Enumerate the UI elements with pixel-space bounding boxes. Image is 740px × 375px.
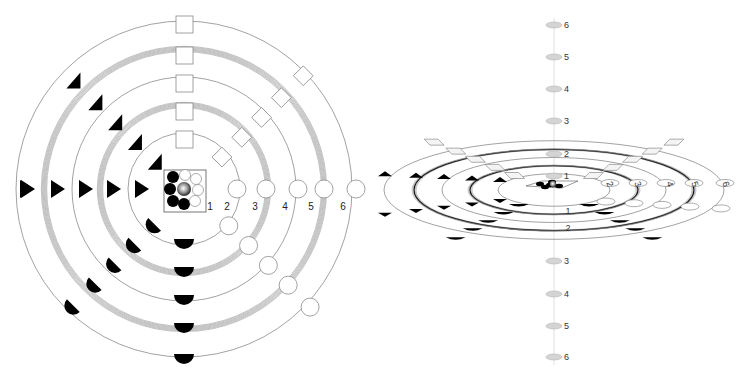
flattened-square-ne1 xyxy=(583,173,603,179)
flattened-circle-e-lower1 xyxy=(597,198,615,205)
flattened-square-nw1 xyxy=(505,173,525,179)
diamond-marker-ne4 xyxy=(271,88,291,108)
flattened-square-nw3 xyxy=(465,156,485,162)
flattened-half-disc-se5 xyxy=(642,237,662,240)
axis-disc-below-3 xyxy=(546,258,562,264)
plan-view-diagram: 123456 xyxy=(16,16,365,364)
axis-label-below-3: 3 xyxy=(564,256,569,266)
open-circle-4 xyxy=(190,196,201,207)
circle-marker-se2 xyxy=(240,237,258,255)
triangle-marker-nw3 xyxy=(108,114,122,130)
axis-disc-below-6 xyxy=(546,354,562,360)
center-filled-disc-4 xyxy=(555,184,563,188)
flattened-circle-e-lower4 xyxy=(681,203,699,210)
filled-circle-3 xyxy=(167,195,179,207)
triangle-marker-w-upper5 xyxy=(378,171,392,176)
half-disc-marker-s1 xyxy=(174,239,194,249)
axis-disc-above-3 xyxy=(546,118,562,124)
filled-circle-2 xyxy=(164,183,176,195)
perspective-view-diagram: 23456126543213456 xyxy=(378,18,734,365)
diamond-marker-ne1 xyxy=(212,147,232,167)
axis-label-above-2: 2 xyxy=(564,149,569,159)
ring-label-6: 6 xyxy=(340,201,346,212)
flattened-half-disc-se3 xyxy=(610,220,630,223)
axis-disc-above-2 xyxy=(546,151,562,157)
triangle-marker-w3 xyxy=(79,180,93,198)
triangle-marker-w-upper2 xyxy=(465,176,479,181)
triangle-marker-w1 xyxy=(135,180,149,198)
circle-marker-se4 xyxy=(279,276,297,294)
flattened-half-disc-se4 xyxy=(625,228,645,231)
half-disc-marker-sw3 xyxy=(102,258,121,277)
triangle-marker-w-lower5 xyxy=(378,213,392,217)
square-marker-n3 xyxy=(176,75,193,92)
filled-circle-4 xyxy=(178,198,190,210)
flattened-square-ne5 xyxy=(664,139,684,145)
axis-label-below-6: 6 xyxy=(564,352,569,362)
triangle-marker-nw1 xyxy=(148,154,162,170)
half-disc-marker-s3 xyxy=(174,295,194,305)
axis-disc-above-6 xyxy=(546,22,562,28)
flattened-half-disc-se2 xyxy=(595,212,615,215)
flattened-half-disc-se1 xyxy=(579,204,599,207)
ring-label-4: 4 xyxy=(282,201,288,212)
flattened-square-ne4 xyxy=(642,148,662,154)
axis-label-above-4: 4 xyxy=(564,84,569,94)
square-marker-n2 xyxy=(176,103,193,120)
center-sphere xyxy=(177,182,191,196)
triangle-marker-w2 xyxy=(107,180,121,198)
triangle-marker-nw4 xyxy=(88,94,102,110)
open-circle-3 xyxy=(193,185,204,196)
triangle-marker-w-lower2 xyxy=(465,202,479,206)
triangle-marker-w6 xyxy=(21,180,35,198)
inner-axis-label-2: 2 xyxy=(565,223,570,233)
axis-disc-above-5 xyxy=(546,54,562,60)
axis-disc-below-4 xyxy=(546,291,562,297)
half-disc-marker-sw5 xyxy=(61,299,80,318)
flattened-circle-e-lower5 xyxy=(712,205,730,212)
diamond-marker-ne5 xyxy=(293,66,313,86)
triangle-marker-nw5 xyxy=(66,72,80,88)
circle-marker-se3 xyxy=(259,256,277,274)
square-marker-n5 xyxy=(176,16,193,33)
flattened-half-disc-sw1 xyxy=(509,204,529,207)
flattened-circle-e-lower3 xyxy=(653,201,671,208)
center-sphere-perspective xyxy=(550,181,556,187)
circle-marker-e3 xyxy=(257,180,275,198)
diagram-canvas: 123456 23456126543213456 xyxy=(0,0,740,375)
axis-label-below-5: 5 xyxy=(564,321,569,331)
diamond-marker-ne2 xyxy=(232,127,252,147)
ring-label-3: 3 xyxy=(252,201,258,212)
circle-marker-e5 xyxy=(315,180,333,198)
axis-label-below-4: 4 xyxy=(564,289,569,299)
circle-marker-se5 xyxy=(301,298,319,316)
circle-marker-e2 xyxy=(228,180,246,198)
triangle-marker-w-lower4 xyxy=(409,209,423,213)
axis-label-above-1: 1 xyxy=(564,171,569,181)
triangle-marker-w-upper4 xyxy=(409,173,423,178)
filled-circle-1 xyxy=(167,171,179,183)
flattened-half-disc-sw4 xyxy=(463,228,483,231)
flattened-half-disc-sw5 xyxy=(446,237,466,240)
circle-marker-e4 xyxy=(289,180,307,198)
inner-axis-label-1: 1 xyxy=(565,206,570,216)
ring-label-2: 2 xyxy=(224,201,230,212)
axis-disc-above-1 xyxy=(546,173,562,179)
square-marker-n4 xyxy=(176,47,193,64)
flattened-square-ne3 xyxy=(623,156,643,162)
triangle-marker-w-upper3 xyxy=(437,174,451,179)
axis-disc-below-5 xyxy=(546,323,562,329)
ring-label-5: 5 xyxy=(308,201,314,212)
flattened-square-ne2 xyxy=(603,164,623,170)
flattened-half-disc-sw3 xyxy=(478,220,498,223)
flattened-half-disc-sw2 xyxy=(494,212,514,215)
diamond-marker-ne3 xyxy=(252,108,272,128)
open-circle-2 xyxy=(191,174,202,185)
square-marker-n1 xyxy=(176,131,193,148)
axis-label-above-5: 5 xyxy=(564,52,569,62)
axis-disc-above-4 xyxy=(546,86,562,92)
triangle-marker-w4 xyxy=(51,180,65,198)
flattened-circle-e-lower2 xyxy=(625,200,643,207)
axis-label-above-3: 3 xyxy=(564,116,569,126)
flattened-square-nw4 xyxy=(446,148,466,154)
